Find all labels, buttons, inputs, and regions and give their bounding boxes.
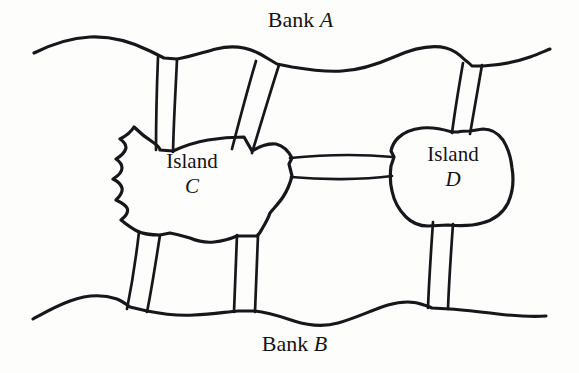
label-bank-b-letter: B bbox=[314, 331, 327, 356]
label-island-d: Island D bbox=[394, 143, 512, 191]
label-bank-a: Bank A bbox=[0, 8, 579, 33]
koenigsberg-figure: Bank A Bank B Island C Island D bbox=[0, 0, 579, 373]
label-island-c: Island C bbox=[128, 150, 256, 198]
label-bank-b: Bank B bbox=[0, 332, 579, 357]
label-island-c-letter: C bbox=[128, 175, 256, 199]
bank-a-shoreline bbox=[34, 37, 550, 71]
label-bank-a-letter: A bbox=[320, 7, 333, 32]
label-bank-a-word: Bank bbox=[268, 7, 314, 32]
bank-b-shoreline bbox=[33, 296, 546, 326]
label-island-d-letter: D bbox=[394, 168, 512, 192]
label-bank-b-word: Bank bbox=[262, 331, 308, 356]
label-island-c-word: Island bbox=[166, 149, 217, 173]
label-island-d-word: Island bbox=[427, 142, 478, 166]
